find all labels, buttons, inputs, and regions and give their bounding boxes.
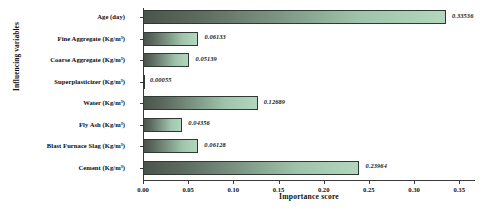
x-axis-tick — [188, 180, 189, 184]
x-axis-tick — [233, 180, 234, 184]
bar-blast-furnace-slag[interactable] — [143, 139, 198, 153]
bar-row: Fine Aggregate (Kg/m³) 0.06133 — [143, 30, 475, 52]
x-axis-tick — [324, 180, 325, 184]
bar-value-fly-ash: 0.04356 — [188, 119, 209, 126]
category-label-coarse-aggregate: Coarse Aggregate (Kg/m³) — [0, 56, 125, 63]
x-axis-title: Importance score — [143, 192, 475, 201]
category-label-text: Coarse Aggregate (Kg/m³) — [50, 56, 125, 63]
category-label-text: Cement (Kg/m³) — [79, 164, 125, 171]
category-label-text: Fly Ash (Kg/m³) — [79, 121, 125, 128]
category-label-blast-furnace-slag: Blast Furnace Slag (Kg/m³) — [0, 142, 125, 149]
category-label-age: Age (day) — [0, 13, 125, 20]
bar-value-superplasticizer: 0.00055 — [150, 76, 171, 83]
bar-row: Blast Furnace Slag (Kg/m³) 0.06128 — [143, 137, 475, 159]
bar-age[interactable] — [143, 10, 446, 24]
x-axis-tick — [459, 180, 460, 184]
bar-water[interactable] — [143, 96, 258, 110]
category-label-cement: Cement (Kg/m³) — [0, 164, 125, 171]
x-axis-tick — [414, 180, 415, 184]
category-label-superplasticizer: Superplasticizer (Kg/m³) — [0, 78, 125, 85]
bar-cement[interactable] — [143, 161, 359, 175]
bar-value-fine-aggregate: 0.06133 — [204, 33, 225, 40]
bar-row: Coarse Aggregate (Kg/m³) 0.05139 — [143, 51, 475, 73]
bar-row: Age (day) 0.33536 — [143, 8, 475, 30]
bar-row: Superplasticizer (Kg/m³) 0.00055 — [143, 73, 475, 95]
importance-score-bar-chart: Influencing variables Age (day) 0.33536 … — [0, 0, 488, 210]
x-axis-tick — [279, 180, 280, 184]
x-axis-tick — [143, 180, 144, 184]
plot-area: Age (day) 0.33536 Fine Aggregate (Kg/m³)… — [143, 8, 475, 180]
bar-row: Cement (Kg/m³) 0.23964 — [143, 159, 475, 181]
bar-superplasticizer[interactable] — [143, 75, 145, 89]
bar-row: Water (Kg/m³) 0.12689 — [143, 94, 475, 116]
bar-value-age: 0.33536 — [452, 12, 473, 19]
category-label-water: Water (Kg/m³) — [0, 99, 125, 106]
category-label-fine-aggregate: Fine Aggregate (Kg/m³) — [0, 35, 125, 42]
bar-row: Fly Ash (Kg/m³) 0.04356 — [143, 116, 475, 138]
bar-value-blast-furnace-slag: 0.06128 — [204, 141, 225, 148]
category-label-fly-ash: Fly Ash (Kg/m³) — [0, 121, 125, 128]
category-label-text: Water (Kg/m³) — [83, 99, 125, 106]
bar-value-coarse-aggregate: 0.05139 — [195, 55, 216, 62]
x-axis-tick — [369, 180, 370, 184]
x-axis-line — [143, 180, 475, 181]
category-label-text: Fine Aggregate (Kg/m³) — [58, 35, 125, 42]
bar-fly-ash[interactable] — [143, 118, 182, 132]
bar-fine-aggregate[interactable] — [143, 32, 198, 46]
bar-value-cement: 0.23964 — [365, 162, 386, 169]
bar-value-water: 0.12689 — [264, 98, 285, 105]
category-label-text: Superplasticizer (Kg/m³) — [54, 78, 125, 85]
category-label-text: Age (day) — [97, 13, 125, 20]
category-label-text: Blast Furnace Slag (Kg/m³) — [47, 142, 125, 149]
bar-coarse-aggregate[interactable] — [143, 53, 189, 67]
